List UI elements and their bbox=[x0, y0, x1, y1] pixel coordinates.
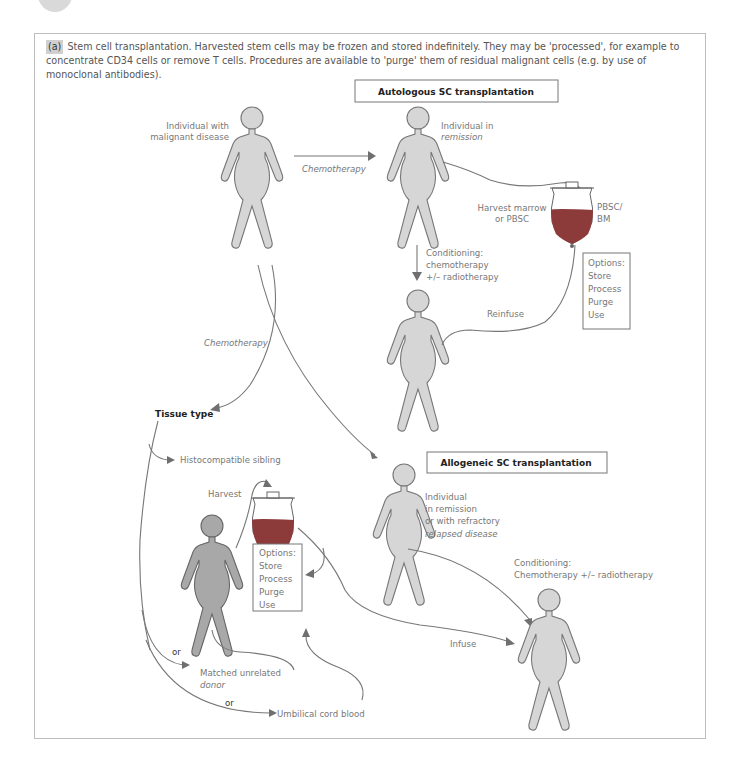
arrowhead-icon bbox=[305, 569, 314, 578]
arrowhead-icon bbox=[263, 479, 272, 487]
auto-conditioning-2: chemotherapy bbox=[426, 260, 489, 270]
patient-figure bbox=[221, 107, 282, 248]
allo-chemo-line bbox=[216, 265, 276, 408]
bag-label-1: PBSC/ bbox=[597, 202, 622, 212]
arrowhead-icon bbox=[269, 709, 277, 717]
patient-label-2: malignant disease bbox=[150, 132, 229, 142]
allo-option-store: Store bbox=[259, 561, 282, 571]
sibling-label: Histocompatible sibling bbox=[180, 455, 281, 465]
auto-option-process: Process bbox=[588, 284, 622, 294]
unrelated-label-2: donor bbox=[200, 680, 225, 690]
allo-chemo-label: Chemotherapy bbox=[204, 338, 269, 348]
infuse-label: Infuse bbox=[450, 639, 476, 649]
remission-label-2: remission bbox=[441, 132, 483, 142]
allo-conditioning-2: Chemotherapy +/– radiotherapy bbox=[514, 570, 653, 580]
allo-conditioning-line bbox=[408, 549, 530, 620]
harvest-label-1: Harvest marrow bbox=[478, 203, 547, 213]
auto-conditioning-1: Conditioning: bbox=[426, 248, 483, 258]
arrowhead-icon bbox=[506, 637, 515, 646]
allo-conditioning-1: Conditioning: bbox=[514, 558, 571, 568]
arrowhead-icon bbox=[412, 272, 422, 281]
final-recipient-figure bbox=[518, 589, 579, 730]
auto-conditioning-3: +/– radiotherapy bbox=[426, 272, 498, 282]
donor-harvest-label: Harvest bbox=[208, 489, 242, 499]
cord-to-options-line bbox=[306, 635, 363, 700]
arrowhead-icon bbox=[368, 151, 376, 161]
blood-bag-icon bbox=[550, 182, 594, 248]
or-label-1: or bbox=[172, 647, 181, 657]
allogeneic-title: Allogeneic SC transplantation bbox=[440, 458, 591, 468]
auto-option-use: Use bbox=[588, 310, 604, 320]
patient-label-1: Individual with bbox=[166, 121, 229, 131]
recipient-label-2: in remission bbox=[425, 504, 477, 514]
arrowhead-icon bbox=[182, 661, 190, 669]
recipient-label-1: Individual bbox=[425, 492, 467, 502]
arrowhead-icon bbox=[302, 628, 310, 637]
auto-option-store: Store bbox=[588, 271, 611, 281]
tissue-type-label: Tissue type bbox=[155, 409, 213, 419]
arrowhead-icon bbox=[370, 451, 378, 459]
harvest-label-2: or PBSC bbox=[495, 214, 529, 224]
bag-label-2: BM bbox=[597, 214, 610, 224]
arrowhead-icon bbox=[167, 456, 175, 464]
recipient-label-3: or with refractory bbox=[425, 516, 500, 526]
reinfuse-label: Reinfuse bbox=[487, 309, 524, 319]
remission-figure bbox=[387, 107, 448, 248]
chemo-arrow-label: Chemotherapy bbox=[302, 164, 367, 174]
conditioned-patient-figure bbox=[387, 290, 448, 431]
cord-label: Umbilical cord blood bbox=[277, 709, 365, 719]
unrelated-label-1: Matched unrelated bbox=[200, 668, 281, 678]
autologous-title: Autologous SC transplantation bbox=[378, 87, 534, 97]
allo-option-purge: Purge bbox=[259, 587, 284, 597]
donor-figure bbox=[181, 515, 242, 656]
auto-option-heading: Options: bbox=[588, 258, 625, 268]
auto-option-purge: Purge bbox=[588, 297, 613, 307]
allo-option-heading: Options: bbox=[259, 548, 296, 558]
remission-label-1: Individual in bbox=[441, 121, 493, 131]
or-label-2: or bbox=[225, 698, 234, 708]
recipient-label-4: relapsed disease bbox=[425, 529, 498, 539]
allo-option-use: Use bbox=[259, 600, 275, 610]
transplant-diagram: Autologous SC transplantation Individual… bbox=[0, 0, 735, 769]
allo-option-process: Process bbox=[259, 574, 293, 584]
